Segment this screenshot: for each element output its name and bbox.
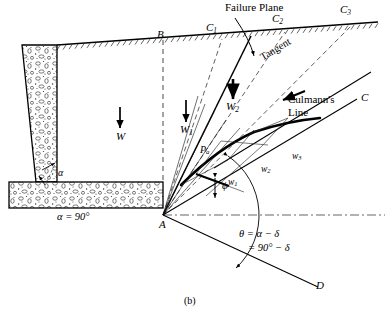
label-w1-sub: 1 — [234, 180, 237, 187]
culmanns-line-label-2: Line — [288, 107, 308, 119]
label-C3: C3 — [340, 4, 351, 16]
label-W2: W2 — [226, 101, 239, 113]
label-w3: w3 — [292, 152, 302, 162]
fan-ray-4 — [163, 128, 240, 215]
label-W2-text: W — [226, 100, 235, 112]
theta-equation-line1: θ = α − δ — [239, 228, 279, 239]
label-W1: W1 — [180, 124, 193, 136]
footing-body — [9, 182, 163, 208]
polygon-edge-3 — [262, 118, 288, 146]
ground-surface-line — [57, 22, 378, 45]
label-phi: ϕ — [222, 180, 228, 192]
label-w2: w2 — [261, 165, 271, 175]
fan-ray-1 — [163, 104, 205, 215]
label-C1-sub: 1 — [213, 26, 217, 35]
label-alpha-value: α = 90° — [57, 211, 90, 222]
theta-equation-line2: = 90° − δ — [248, 242, 290, 253]
label-w3-sub: 3 — [298, 154, 301, 161]
label-w2-sub: 2 — [267, 167, 270, 174]
figure-root: Failure Plane C1 C2 C3 B W W1 W2 Tangent… — [0, 0, 389, 316]
label-B: B — [157, 29, 164, 41]
diagram-svg — [0, 0, 389, 316]
wall-stem-body — [22, 45, 57, 182]
label-C2: C2 — [272, 13, 283, 25]
label-C: C — [361, 92, 368, 104]
label-W1-text: W — [180, 123, 189, 135]
line-AD — [163, 215, 318, 287]
label-W: W — [116, 131, 125, 143]
label-A: A — [159, 219, 166, 231]
polygon-top-1 — [221, 141, 268, 145]
label-W1-sub: 1 — [189, 128, 193, 137]
wall-footing — [9, 182, 163, 208]
label-Pa-sub: a — [206, 148, 209, 155]
label-w1: w1 — [228, 178, 238, 188]
label-alpha: α — [58, 168, 63, 179]
ground-hatching — [57, 23, 378, 50]
culmanns-line-label-1: Culmann's — [288, 94, 335, 106]
label-C2-sub: 2 — [279, 17, 283, 26]
label-Pa: Pa — [200, 145, 210, 156]
label-C3-sub: 3 — [347, 8, 351, 17]
retaining-wall-stem — [22, 45, 57, 182]
fan-ray-3 — [163, 120, 226, 215]
label-D: D — [316, 280, 324, 292]
label-W2-sub: 2 — [235, 105, 239, 114]
label-C1: C1 — [206, 22, 217, 34]
ground-surface-group — [57, 22, 378, 50]
figure-caption: (b) — [184, 296, 196, 307]
